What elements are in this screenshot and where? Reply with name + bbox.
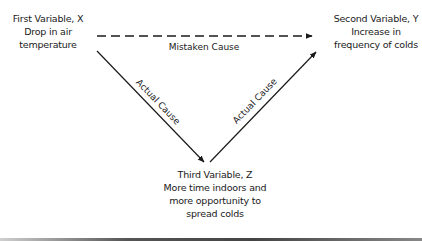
actual-cause-label-z-to-y: Actual Cause [231,76,279,126]
diagram-arrows: Mistaken Cause Actual Cause Actual Cause [0,0,422,241]
actual-cause-label-x-to-z: Actual Cause [134,77,182,127]
actual-cause-arrow-z-to-y: Actual Cause [210,52,316,162]
mistaken-cause-arrow: Mistaken Cause [97,36,312,52]
actual-cause-arrow-x-to-z: Actual Cause [97,51,204,162]
mistaken-cause-label: Mistaken Cause [169,42,240,52]
